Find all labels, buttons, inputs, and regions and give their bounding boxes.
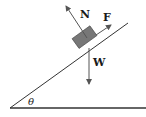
incline-diagram: N F W θ — [0, 0, 146, 117]
friction-force-arrow — [96, 25, 111, 35]
block — [72, 26, 97, 49]
label-n: N — [80, 8, 90, 21]
label-f: F — [103, 11, 111, 24]
label-theta: θ — [28, 96, 34, 107]
label-w: W — [92, 56, 106, 69]
